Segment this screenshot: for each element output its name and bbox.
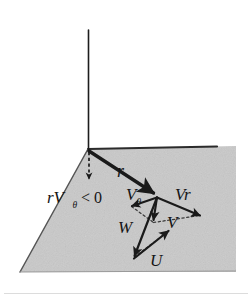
label-inequality: < 0 — [81, 189, 102, 206]
diagram-canvas: r rV θ < 0 V θ Vr V W U — [0, 0, 252, 298]
label-w: W — [118, 218, 134, 237]
label-v-theta-sub: θ — [137, 197, 142, 207]
vector-diagram-figure: r rV θ < 0 V θ Vr V W U — [0, 0, 252, 298]
label-r-v-theta-sub: θ — [73, 200, 78, 210]
plane-surface — [20, 146, 236, 272]
label-r: r — [117, 161, 125, 181]
label-r-v-theta-main: rV — [47, 188, 67, 207]
label-vr: Vr — [175, 185, 191, 204]
label-u: U — [150, 251, 164, 270]
ground-plane — [20, 146, 236, 272]
